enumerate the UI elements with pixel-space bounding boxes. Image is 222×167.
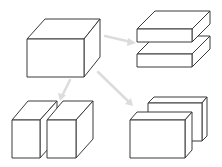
arrow-to-front-back-split (98, 72, 133, 106)
left-right-split (12, 101, 93, 158)
front-half-box (130, 112, 192, 158)
horizontal-split (137, 11, 210, 67)
arrow-to-left-right-split (58, 80, 70, 101)
cuboid-split-diagram (0, 0, 222, 167)
front-back-split (130, 97, 207, 158)
arrow-to-horizontal-split (105, 36, 136, 46)
whole-cuboid (27, 19, 100, 77)
